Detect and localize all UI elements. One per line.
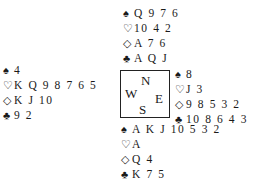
spade-icon: ♠ (121, 122, 132, 137)
heart-icon: ♡ (175, 82, 186, 97)
north-hand: ♠Q 9 7 6 ♡10 4 2 ◇A 7 6 ♣A Q J (123, 6, 179, 66)
north-spades: ♠Q 9 7 6 (123, 6, 179, 21)
diamond-icon: ◇ (123, 36, 134, 51)
south-diamonds: ◇Q 4 (121, 152, 221, 167)
spade-icon: ♠ (3, 63, 14, 78)
west-diamonds: ◇K J 10 (3, 93, 97, 108)
compass-east: E (155, 91, 163, 107)
spade-icon: ♠ (123, 6, 134, 21)
west-clubs: ♣9 2 (3, 108, 97, 123)
south-spades: ♠A K J 10 5 3 2 (121, 122, 221, 137)
west-spades: ♠4 (3, 63, 97, 78)
club-icon: ♣ (3, 108, 14, 123)
diamond-icon: ◇ (121, 152, 132, 167)
south-hand: ♠A K J 10 5 3 2 ♡A ◇Q 4 ♣K 7 5 (121, 122, 221, 182)
south-hearts: ♡A (121, 137, 221, 152)
south-clubs: ♣K 7 5 (121, 167, 221, 182)
spade-icon: ♠ (175, 67, 186, 82)
north-hearts: ♡10 4 2 (123, 21, 179, 36)
compass-north: N (141, 73, 150, 89)
diamond-icon: ◇ (175, 97, 186, 112)
east-diamonds: ◇9 8 5 3 2 (175, 97, 248, 112)
east-hearts: ♡J 3 (175, 82, 248, 97)
east-hand: ♠8 ♡J 3 ◇9 8 5 3 2 ♣10 8 6 4 3 (175, 67, 248, 127)
compass-south: S (139, 102, 146, 118)
west-hearts: ♡K Q 9 8 7 6 5 (3, 78, 97, 93)
diamond-icon: ◇ (3, 93, 14, 108)
compass-box: N W E S (120, 70, 170, 118)
heart-icon: ♡ (123, 21, 134, 36)
north-clubs: ♣A Q J (123, 51, 179, 66)
heart-icon: ♡ (121, 137, 132, 152)
compass-west: W (125, 86, 137, 102)
heart-icon: ♡ (3, 78, 14, 93)
north-diamonds: ◇A 7 6 (123, 36, 179, 51)
club-icon: ♣ (121, 167, 132, 182)
west-hand: ♠4 ♡K Q 9 8 7 6 5 ◇K J 10 ♣9 2 (3, 63, 97, 123)
club-icon: ♣ (123, 51, 134, 66)
east-spades: ♠8 (175, 67, 248, 82)
